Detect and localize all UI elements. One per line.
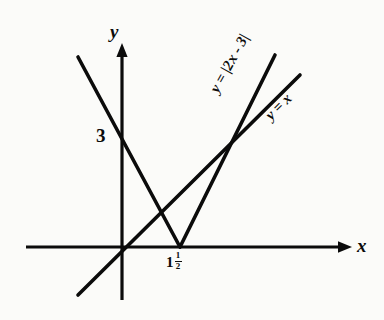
fraction-numerator: 1 — [175, 251, 182, 260]
x-intercept-whole-part: 1 — [166, 255, 174, 270]
curve-abs-left-branch — [78, 57, 180, 247]
x-axis-arrow-icon — [338, 241, 352, 253]
graph-plot — [0, 0, 384, 320]
fraction-denominator: 2 — [175, 262, 182, 271]
figure-canvas: y x 3 1 1 2 y = |2x - 3| y = x — [0, 0, 384, 320]
y-intercept-label: 3 — [96, 126, 106, 145]
x-axis-label: x — [357, 236, 367, 255]
y-axis-arrow-icon — [116, 43, 127, 57]
x-intercept-fraction: 1 2 — [175, 251, 182, 271]
y-axis-label: y — [110, 22, 118, 41]
curve-abs-right-branch — [180, 55, 275, 247]
x-intercept-label: 1 1 2 — [166, 252, 182, 272]
